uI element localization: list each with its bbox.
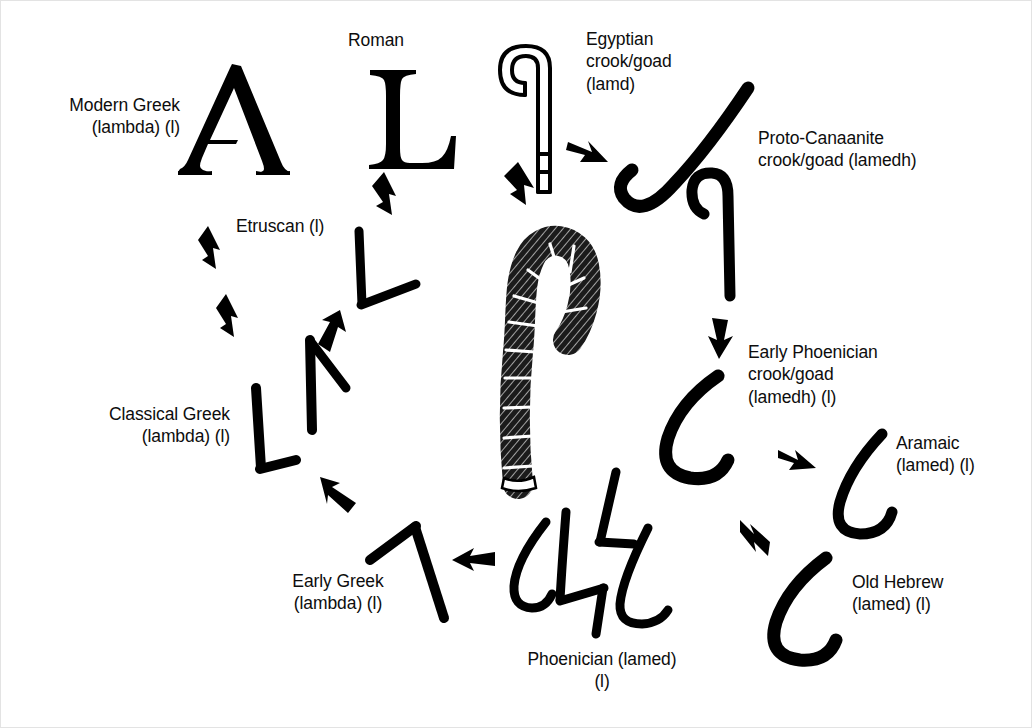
glyph-proto-canaanite-pair [612,82,758,318]
arrow-early-greek-to-classical-greek [318,475,358,515]
arrow-etruscan-to-modern-greek-upper [198,226,226,270]
glyph-modern-greek-lambda [178,62,290,178]
glyph-early-greek-lambda [366,518,462,624]
arrow-early-phoenician-to-aramaic [778,448,818,476]
label-modern-greek: Modern Greek (lambda) (l) [20,94,180,139]
arrow-shepherd-staff-to-egyptian-crook [504,162,536,206]
label-roman: Roman [296,29,456,51]
arrow-proto-canaanite-to-early-phoenician [706,318,736,360]
label-proto-canaanite: Proto-Canaanite crook/goad (lamedh) [758,127,968,172]
glyph-old-hebrew-lamed [762,550,848,670]
arrow-egyptian-to-proto-canaanite [566,138,610,170]
label-phoenician: Phoenician (lamed) (l) [494,648,710,693]
glyph-aramaic-lamed [824,428,904,544]
glyph-egyptian-shepherd-staff [474,222,594,490]
arrow-etruscan-to-modern-greek-lower [216,294,244,338]
label-old-hebrew: Old Hebrew (lamed) (l) [852,571,1012,616]
alphabet-evolution-diagram: Modern Greek (lambda) (l) Roman Etruscan… [0,0,1032,728]
label-early-phoenician: Early Phoenician crook/goad (lamedh) (l) [748,341,918,408]
glyph-early-phoenician-lamed [654,368,740,488]
glyph-classical-greek-pair [248,334,352,484]
arrow-classical-greek-to-etruscan [318,310,352,354]
glyph-roman-L [366,68,458,170]
label-classical-greek: Classical Greek (lambda) (l) [60,403,230,448]
label-aramaic: Aramaic (lamed) (l) [896,432,1026,477]
arrow-phoenician-to-early-greek [452,546,496,574]
arrow-aramaic-to-old-hebrew [740,518,776,558]
arrow-etruscan-to-roman [372,172,402,216]
glyph-etruscan-L [354,228,420,318]
